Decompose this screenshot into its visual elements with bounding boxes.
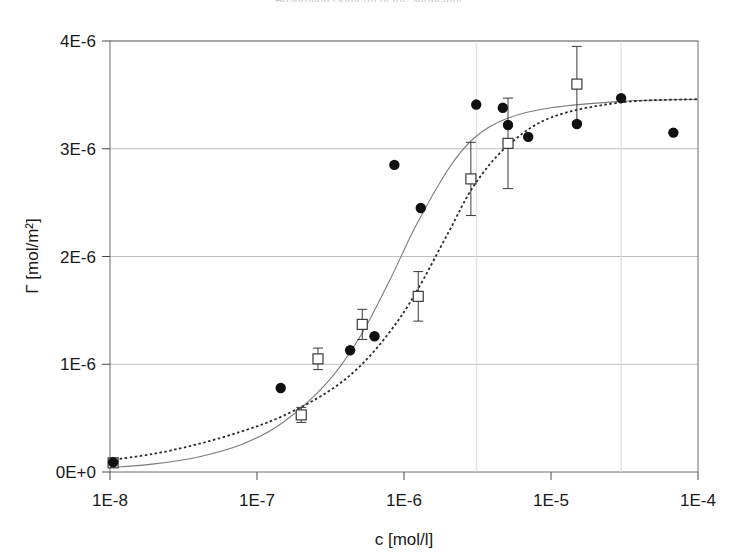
data-point-square bbox=[296, 410, 306, 420]
x-tick-label: 1E-7 bbox=[239, 491, 275, 510]
x-tick-label: 1E-5 bbox=[533, 491, 569, 510]
x-tick-label: 1E-6 bbox=[386, 491, 422, 510]
x-axis-title: c [mol/l] bbox=[375, 530, 434, 549]
data-point-circle bbox=[616, 93, 626, 103]
y-tick-labels: 0E+01E-62E-63E-64E-6 bbox=[56, 32, 96, 482]
x-axis-ticks bbox=[110, 41, 698, 480]
data-point-circle bbox=[108, 457, 118, 467]
y-tick-label: 4E-6 bbox=[60, 32, 96, 51]
grid-lines bbox=[110, 41, 698, 364]
data-point-circle bbox=[668, 127, 678, 137]
data-point-circle bbox=[416, 203, 426, 213]
data-point-square bbox=[466, 174, 476, 184]
data-point-circle bbox=[498, 103, 508, 113]
fit-curves bbox=[110, 99, 698, 468]
data-point-square bbox=[313, 354, 323, 364]
y-tick-label: 3E-6 bbox=[60, 140, 96, 159]
y-tick-label: 2E-6 bbox=[60, 248, 96, 267]
chart-canvas: 0E+01E-62E-63E-64E-6 1E-81E-71E-61E-51E-… bbox=[0, 0, 737, 558]
data-point-circle bbox=[276, 383, 286, 393]
data-point-circle bbox=[523, 132, 533, 142]
y-axis-ticks bbox=[102, 41, 110, 472]
x-tick-label: 1E-8 bbox=[92, 491, 128, 510]
data-point-square bbox=[503, 138, 513, 148]
data-point-square bbox=[357, 319, 367, 329]
y-axis-title: Γ [mol/m²] bbox=[23, 218, 42, 293]
data-point-circle bbox=[572, 119, 582, 129]
data-point-circle bbox=[471, 99, 481, 109]
chart-figure: Adsorption isotherm of the surfactant 0E… bbox=[0, 0, 737, 558]
x-tick-labels: 1E-81E-71E-61E-51E-4 bbox=[92, 491, 716, 510]
data-point-circle bbox=[389, 160, 399, 170]
x-tick-label: 1E-4 bbox=[680, 491, 716, 510]
data-point-circle bbox=[369, 331, 379, 341]
data-point-circle bbox=[503, 120, 513, 130]
series-open-squares bbox=[108, 79, 582, 468]
y-tick-label: 0E+0 bbox=[56, 463, 96, 482]
data-point-square bbox=[572, 79, 582, 89]
data-point-circle bbox=[345, 345, 355, 355]
fit-curve-solid bbox=[110, 99, 698, 468]
fit-curve-dotted bbox=[110, 99, 698, 460]
data-point-square bbox=[413, 291, 423, 301]
y-tick-label: 1E-6 bbox=[60, 355, 96, 374]
